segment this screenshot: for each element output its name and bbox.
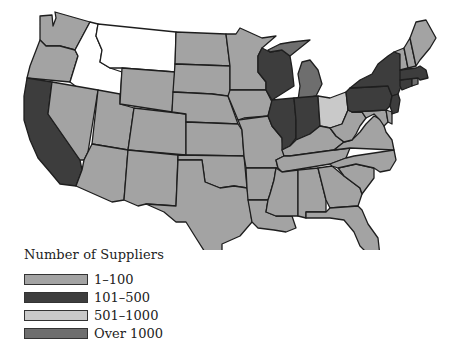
legend-title: Number of Suppliers	[24, 247, 164, 262]
legend-label: 101–500	[94, 290, 150, 305]
legend: Number of Suppliers 1–100 101–500 501–10…	[24, 247, 164, 342]
legend-label: Over 1000	[94, 326, 163, 341]
state-NM	[124, 150, 178, 206]
state-PA	[346, 86, 392, 112]
legend-swatch-1-100	[24, 274, 88, 285]
legend-item-over-1000: Over 1000	[24, 324, 164, 342]
legend-item-101-500: 101–500	[24, 288, 164, 306]
us-suppliers-map	[0, 0, 459, 250]
state-WY	[120, 68, 175, 112]
state-ND	[175, 32, 230, 66]
state-CO	[128, 108, 186, 155]
state-NJ	[390, 94, 400, 114]
state-ME	[410, 20, 436, 66]
legend-label: 1–100	[94, 272, 134, 287]
legend-item-1-100: 1–100	[24, 270, 164, 288]
legend-label: 501–1000	[94, 308, 158, 323]
legend-item-501-1000: 501–1000	[24, 306, 164, 324]
legend-swatch-over-1000	[24, 328, 88, 339]
state-FL	[306, 206, 380, 250]
legend-swatch-101-500	[24, 292, 88, 303]
state-KS	[186, 122, 244, 156]
state-MT	[96, 24, 176, 72]
legend-swatch-501-1000	[24, 310, 88, 321]
state-SD	[173, 64, 230, 96]
